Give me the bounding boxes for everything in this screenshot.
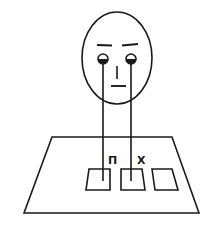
diagram-svg: П X	[0, 0, 217, 245]
right-eye	[126, 54, 136, 64]
box-middle	[121, 169, 145, 190]
head-outline	[82, 12, 152, 104]
label-x: X	[137, 154, 146, 167]
label-pe: П	[108, 154, 117, 167]
surface-plane	[24, 137, 199, 213]
right-eyebrow	[122, 44, 138, 46]
left-eye	[98, 54, 108, 64]
box-right	[152, 169, 178, 190]
diagram-canvas: П X	[0, 0, 217, 245]
left-eyebrow	[97, 45, 112, 46]
box-left	[86, 169, 110, 190]
